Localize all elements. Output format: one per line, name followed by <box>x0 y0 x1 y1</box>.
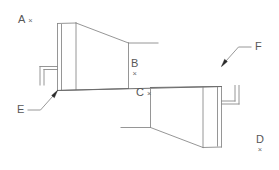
label-e: E <box>17 104 24 115</box>
lower-right-bottom-cap <box>203 147 222 148</box>
upper-left-taper-top <box>76 23 129 43</box>
label-d-glyph: D <box>256 134 264 145</box>
lower-right-top-edge <box>151 87 222 88</box>
upper-left-top-cap <box>58 23 77 24</box>
leader-f-line <box>222 47 252 66</box>
label-c: C × <box>136 87 151 98</box>
technical-drawing-canvas: A × B × C × D × E F <box>0 0 279 170</box>
lower-right-taper-bottom <box>151 128 204 148</box>
leader-f <box>221 47 251 67</box>
label-a-glyph: A <box>18 14 25 25</box>
drawing-svg <box>0 0 279 170</box>
label-b-glyph: B <box>131 58 138 69</box>
right-bracket <box>222 86 240 105</box>
label-a-mark: × <box>28 17 32 25</box>
leader-e <box>28 90 58 110</box>
label-b: B × <box>131 58 138 78</box>
label-a: A × <box>18 14 33 25</box>
label-f-glyph: F <box>255 40 262 52</box>
label-b-mark: × <box>132 70 136 78</box>
label-c-mark: × <box>147 90 151 98</box>
label-c-glyph: C <box>136 87 144 98</box>
label-d: D × <box>256 134 264 154</box>
label-e-glyph: E <box>17 103 24 115</box>
leader-e-line <box>28 92 58 111</box>
label-f: F <box>255 41 262 52</box>
upper-left-body <box>58 23 159 91</box>
left-bracket <box>40 67 58 86</box>
label-d-mark: × <box>258 146 262 154</box>
